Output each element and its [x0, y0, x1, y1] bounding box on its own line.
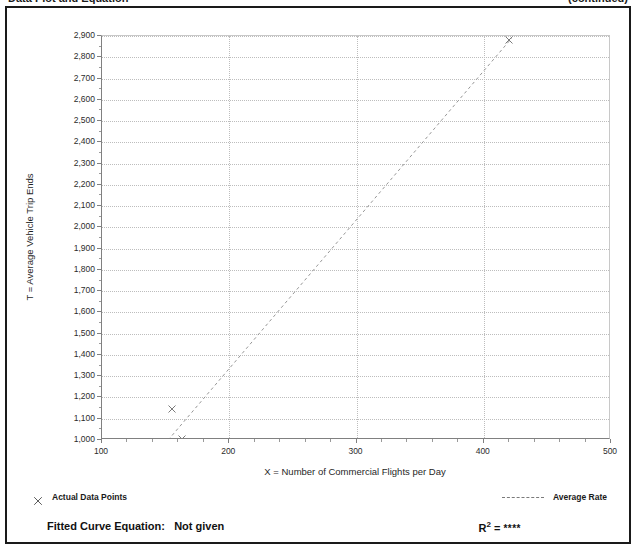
y-axis-minor-tick: [99, 301, 102, 302]
y-axis-tick: [97, 78, 101, 79]
y-axis-tick-label: 1,300: [43, 370, 95, 380]
x-axis-tick-label: 300: [348, 446, 362, 456]
y-axis-minor-tick: [99, 216, 102, 217]
y-axis-tick-label: 2,300: [43, 158, 95, 168]
r-squared-value: R2 = ****: [478, 520, 521, 534]
y-axis-tick-label: 1,700: [43, 285, 95, 295]
x-axis-minor-tick: [406, 439, 407, 442]
x-axis-tick-label: 400: [476, 446, 490, 456]
y-axis-minor-tick: [99, 258, 102, 259]
y-axis-tick: [97, 120, 101, 121]
x-axis-tick: [228, 439, 229, 443]
y-axis-tick-label: 2,000: [43, 221, 95, 231]
legend-item-actual-data-points: Actual Data Points: [33, 492, 127, 502]
x-axis-minor-tick: [381, 439, 382, 442]
y-axis-tick: [97, 184, 101, 185]
r-squared-equals: =: [491, 522, 504, 534]
y-axis-minor-tick: [99, 322, 102, 323]
y-axis-tick: [97, 141, 101, 142]
legend-label-average-rate: Average Rate: [553, 492, 607, 502]
y-axis-tick: [97, 354, 101, 355]
y-axis-minor-tick: [99, 173, 102, 174]
x-axis-tick: [483, 439, 484, 443]
fitted-curve-value: Not given: [174, 520, 224, 532]
page-header-title: Data Plot and Equation: [8, 0, 128, 4]
equation-row: Fitted Curve Equation: Not given R2 = **…: [7, 520, 629, 542]
y-axis-title: T = Average Vehicle Trip Ends: [24, 173, 35, 300]
page-header-subtitle: (continued): [568, 0, 628, 4]
x-marker-icon: [33, 492, 43, 502]
y-axis-tick: [97, 418, 101, 419]
x-axis-minor-tick: [508, 439, 509, 442]
y-axis-tick-label: 2,800: [43, 51, 95, 61]
y-axis-minor-tick: [99, 46, 102, 47]
y-axis-tick-label: 1,900: [43, 243, 95, 253]
x-axis-title: X = Number of Commercial Flights per Day: [264, 466, 445, 477]
dashed-line-icon: [502, 497, 544, 498]
trend-line-average-rate: [102, 36, 609, 438]
plot-area: [101, 35, 610, 439]
y-axis-tick-label: 1,000: [43, 434, 95, 444]
y-axis-minor-tick: [99, 67, 102, 68]
y-axis-minor-tick: [99, 109, 102, 110]
y-axis-tick-label: 2,400: [43, 136, 95, 146]
x-axis-minor-tick: [457, 439, 458, 442]
x-axis-minor-tick: [534, 439, 535, 442]
legend-label-actual-data-points: Actual Data Points: [52, 492, 127, 502]
x-axis-minor-tick: [330, 439, 331, 442]
x-axis-minor-tick: [203, 439, 204, 442]
x-axis-minor-tick: [126, 439, 127, 442]
y-axis-tick-label: 1,400: [43, 349, 95, 359]
fitted-curve-label: Fitted Curve Equation:: [47, 520, 165, 532]
y-axis-tick: [97, 205, 101, 206]
y-axis-tick-label: 2,700: [43, 73, 95, 83]
legend-item-average-rate: Average Rate: [502, 492, 607, 502]
y-axis-minor-tick: [99, 88, 102, 89]
y-axis-tick: [97, 333, 101, 334]
x-axis-minor-tick: [305, 439, 306, 442]
y-axis-minor-tick: [99, 365, 102, 366]
y-axis-tick: [97, 56, 101, 57]
x-axis-tick: [356, 439, 357, 443]
y-axis-tick-label: 1,500: [43, 328, 95, 338]
y-axis-minor-tick: [99, 386, 102, 387]
y-axis-tick-label: 2,900: [43, 30, 95, 40]
r-squared-stars: ****: [503, 523, 521, 534]
x-axis-minor-tick: [585, 439, 586, 442]
x-axis-tick-label: 100: [94, 446, 108, 456]
y-axis-tick: [97, 248, 101, 249]
x-axis-tick: [610, 439, 611, 443]
y-axis-minor-tick: [99, 152, 102, 153]
y-axis-tick-label: 1,100: [43, 413, 95, 423]
y-axis-tick: [97, 35, 101, 36]
y-axis-minor-tick: [99, 343, 102, 344]
y-axis-tick: [97, 269, 101, 270]
y-axis-minor-tick: [99, 428, 102, 429]
y-axis-tick: [97, 311, 101, 312]
y-axis-tick: [97, 226, 101, 227]
y-axis-tick: [97, 99, 101, 100]
x-axis-minor-tick: [279, 439, 280, 442]
chart-area: 1,0001,1001,2001,3001,4001,5001,6001,700…: [7, 8, 629, 488]
y-axis-minor-tick: [99, 131, 102, 132]
y-axis-tick: [97, 396, 101, 397]
y-axis-tick: [97, 290, 101, 291]
y-axis-tick-label: 2,600: [43, 94, 95, 104]
y-axis-minor-tick: [99, 237, 102, 238]
y-axis-tick-label: 2,500: [43, 115, 95, 125]
x-axis-tick: [101, 439, 102, 443]
x-axis-minor-tick: [254, 439, 255, 442]
y-axis-tick-label: 1,800: [43, 264, 95, 274]
y-axis-tick-label: 2,200: [43, 179, 95, 189]
x-axis-minor-tick: [559, 439, 560, 442]
x-axis-minor-tick: [152, 439, 153, 442]
y-axis-tick-label: 1,200: [43, 391, 95, 401]
x-axis-tick-label: 500: [603, 446, 617, 456]
x-axis-tick-label: 200: [221, 446, 235, 456]
chart-legend: Actual Data Points Average Rate: [7, 492, 629, 512]
y-axis-tick-label: 2,100: [43, 200, 95, 210]
y-axis-minor-tick: [99, 194, 102, 195]
x-axis-minor-tick: [177, 439, 178, 442]
y-axis-tick-label: 1,600: [43, 306, 95, 316]
y-axis-tick: [97, 375, 101, 376]
